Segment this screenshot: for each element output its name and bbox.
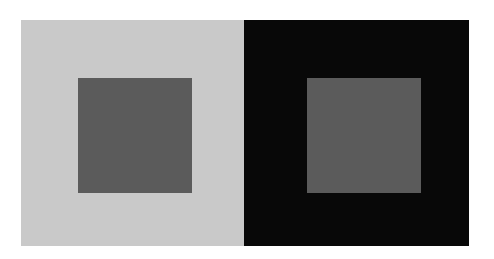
right-inner-gray-square xyxy=(307,78,421,193)
right-panel-dark-background xyxy=(244,20,469,246)
left-panel-light-background xyxy=(21,20,244,246)
left-inner-gray-square xyxy=(78,78,192,193)
contrast-illusion-figure xyxy=(0,0,494,259)
